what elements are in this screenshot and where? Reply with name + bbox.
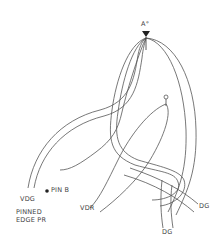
label-dg-right: DG (199, 203, 209, 210)
top-arrow-icon (142, 31, 150, 37)
pin-b-dot-icon (45, 189, 49, 193)
outer-loop-right (146, 38, 196, 215)
label-vdr: VDR (80, 205, 95, 212)
left-loops (60, 38, 185, 206)
label-pin-b: PIN B (51, 187, 69, 194)
label-top-arrow: A° (141, 21, 149, 28)
inner-loop-vdr (90, 104, 168, 212)
label-pinned-edge-line2: EDGE PR (16, 217, 46, 224)
strands-to-dg-bottom (161, 180, 173, 228)
label-vdg: VDG (20, 196, 35, 203)
strand-vdg-outer (28, 38, 146, 188)
label-dg-bottom: DG (162, 229, 172, 236)
